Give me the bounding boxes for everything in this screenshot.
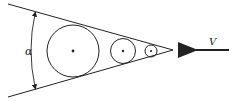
circle-centers bbox=[72, 50, 152, 53]
medium-center-dot bbox=[122, 50, 124, 52]
wedge-diagram: α V bbox=[0, 0, 239, 101]
small-center-dot bbox=[150, 50, 152, 52]
angle-label: α bbox=[25, 45, 33, 58]
large-center-dot bbox=[72, 50, 75, 53]
cone-walls bbox=[8, 4, 173, 97]
circles bbox=[47, 25, 157, 77]
velocity-label: V bbox=[209, 36, 218, 47]
